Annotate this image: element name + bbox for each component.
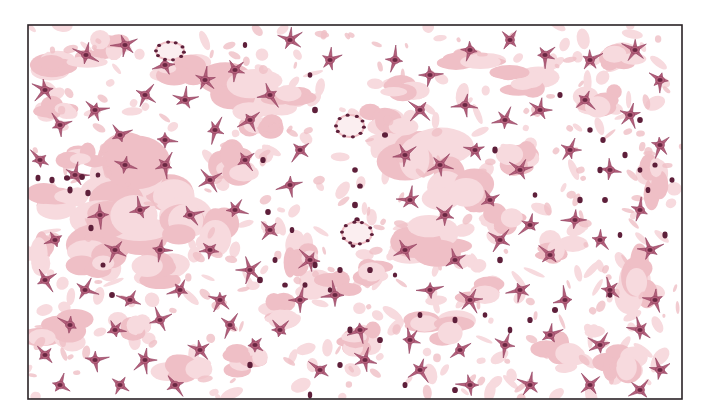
cell-nucleus: [527, 383, 532, 387]
cell-nucleus: [177, 288, 182, 292]
ring-nucleus: [171, 58, 175, 61]
free-nucleus: [247, 362, 252, 368]
free-nucleus: [382, 132, 388, 137]
matrix-patch: [127, 316, 145, 336]
cell-nucleus: [627, 113, 632, 117]
ring-nucleus: [348, 241, 352, 244]
cell-nucleus: [117, 383, 122, 387]
cell-nucleus: [542, 53, 547, 57]
cell-nucleus: [657, 78, 662, 82]
matrix-patch: [460, 55, 501, 70]
cell-nucleus: [252, 343, 257, 347]
cell-nucleus: [527, 223, 532, 227]
matrix-patch: [602, 46, 626, 63]
matrix-patch: [38, 55, 64, 69]
matrix-patch: [448, 178, 484, 207]
ring-nucleus: [163, 58, 167, 61]
matrix-fleck: [58, 106, 65, 114]
histology-illustration: [0, 0, 703, 417]
cell-nucleus: [567, 148, 572, 152]
free-nucleus: [312, 262, 317, 269]
cell-nucleus: [442, 213, 447, 217]
free-nucleus: [618, 232, 623, 238]
free-nucleus: [85, 190, 90, 197]
matrix-patch: [501, 208, 523, 227]
matrix-fleck: [546, 94, 555, 99]
cell-nucleus: [407, 198, 412, 202]
cell-nucleus: [42, 88, 47, 92]
cell-nucleus: [247, 268, 252, 272]
ring-nucleus: [154, 49, 158, 52]
cell-nucleus: [597, 238, 602, 242]
cell-nucleus: [52, 238, 57, 242]
cell-nucleus: [402, 248, 407, 252]
free-nucleus: [357, 183, 363, 188]
ring-nucleus: [179, 55, 183, 58]
free-nucleus: [308, 72, 313, 77]
cell-nucleus: [267, 228, 272, 232]
cell-nucleus: [607, 288, 612, 292]
cell-nucleus: [162, 138, 167, 142]
free-nucleus: [646, 187, 651, 193]
cell-nucleus: [142, 358, 147, 362]
cell-nucleus: [472, 148, 477, 152]
cell-nucleus: [242, 158, 247, 162]
matrix-patch: [314, 273, 345, 287]
cell-nucleus: [517, 168, 522, 172]
cell-nucleus: [122, 163, 127, 167]
ring-nucleus: [366, 239, 370, 242]
matrix-patch: [276, 85, 302, 101]
cell-nucleus: [112, 328, 117, 332]
cell-nucleus: [92, 358, 97, 362]
cell-nucleus: [547, 333, 552, 337]
cell-nucleus: [162, 163, 167, 167]
free-nucleus: [352, 202, 358, 208]
cell-nucleus: [427, 288, 432, 292]
matrix-patch: [162, 224, 195, 244]
free-nucleus: [64, 175, 70, 181]
free-nucleus: [109, 292, 115, 298]
cell-nucleus: [462, 103, 467, 107]
cell-nucleus: [467, 298, 472, 302]
cell-nucleus: [287, 38, 292, 42]
free-nucleus: [101, 262, 106, 267]
matrix-speckle: [626, 91, 631, 109]
cell-nucleus: [457, 348, 462, 352]
free-nucleus: [453, 317, 458, 323]
free-nucleus: [527, 317, 532, 323]
cell-nucleus: [502, 343, 507, 347]
free-nucleus: [312, 107, 318, 114]
cell-nucleus: [207, 178, 212, 182]
free-nucleus: [79, 174, 85, 180]
ring-nucleus: [182, 51, 186, 54]
free-nucleus: [308, 392, 312, 399]
cell-nucleus: [652, 298, 657, 302]
cell-nucleus: [42, 278, 47, 282]
ring-nucleus: [360, 221, 364, 224]
ring-nucleus: [358, 242, 362, 245]
cell-nucleus: [562, 298, 567, 302]
free-nucleus: [36, 175, 41, 181]
cell-nucleus: [327, 58, 332, 62]
cell-nucleus: [277, 328, 282, 332]
cell-nucleus: [417, 368, 422, 372]
matrix-patch: [498, 67, 519, 80]
ring-nucleus: [174, 41, 178, 44]
matrix-speckle: [466, 254, 475, 267]
cell-nucleus: [247, 118, 252, 122]
cell-nucleus: [657, 368, 662, 372]
ring-nucleus: [336, 130, 340, 133]
cell-nucleus: [217, 298, 222, 302]
ring-nucleus: [370, 233, 374, 236]
free-nucleus: [273, 257, 278, 263]
free-nucleus: [403, 382, 408, 388]
free-nucleus: [337, 362, 342, 368]
free-nucleus: [638, 167, 643, 172]
cell-nucleus: [142, 93, 147, 97]
free-nucleus: [265, 209, 271, 215]
free-nucleus: [608, 292, 613, 297]
matrix-speckle: [362, 202, 368, 215]
matrix-patch: [70, 153, 91, 164]
ring-nucleus: [351, 135, 355, 138]
ring-nucleus: [346, 114, 350, 117]
